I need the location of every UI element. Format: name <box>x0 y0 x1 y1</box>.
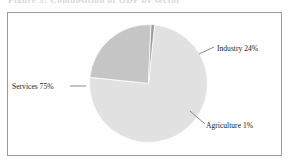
pie-slice-industry[interactable] <box>90 24 151 83</box>
pie-chart-canvas: Services 75%Industry 24%Agriculture 1% <box>0 0 290 166</box>
leader-line-industry <box>199 47 214 54</box>
slice-label-agriculture: Agriculture 1% <box>206 121 254 130</box>
slice-label-industry: Industry 24% <box>217 44 259 53</box>
pie-chart-figure: Figure 3: Composition of GDP by sector S… <box>0 0 290 166</box>
pie-slice-group <box>89 24 207 142</box>
slice-label-services: Services 75% <box>12 82 54 91</box>
